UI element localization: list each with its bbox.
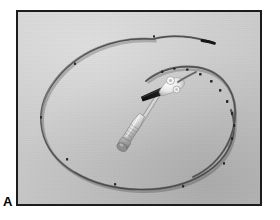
- catheter-outer-loop: [41, 38, 234, 190]
- catheter-tip: [202, 41, 215, 44]
- depth-markers: [40, 35, 235, 187]
- catheter-device-illustration: [18, 12, 260, 204]
- photograph-frame: [16, 10, 262, 206]
- wing-to-catheter-junction: [178, 72, 196, 82]
- figure-panel: A: [0, 0, 280, 220]
- hub-body: [122, 112, 146, 142]
- panel-label: A: [3, 195, 12, 208]
